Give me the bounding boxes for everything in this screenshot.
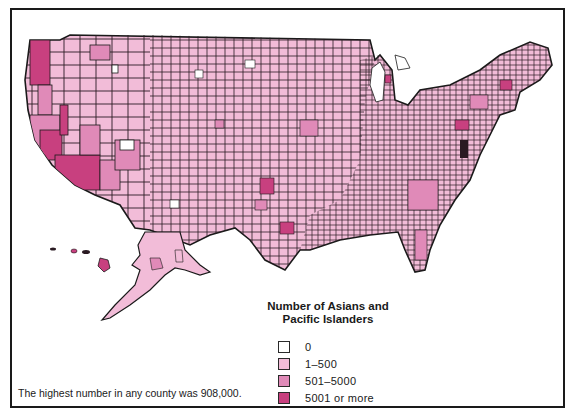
legend-item-501-5000: 501–5000 xyxy=(278,372,408,389)
legend-swatch-icon xyxy=(278,358,290,370)
legend-swatch-icon xyxy=(278,392,290,404)
legend-item-1-500: 1–500 xyxy=(278,355,408,372)
map-legend: Number of Asians and Pacific Islanders 0… xyxy=(258,300,408,406)
alaska xyxy=(102,232,210,320)
hawaii xyxy=(50,248,110,273)
legend-item-5001-plus: 5001 or more xyxy=(278,389,408,406)
footnote: The highest number in any county was 908… xyxy=(18,387,242,399)
legend-item-0: 0 xyxy=(278,338,408,355)
legend-title: Number of Asians and Pacific Islanders xyxy=(258,300,398,326)
contiguous-us xyxy=(20,30,560,280)
legend-swatch-icon xyxy=(278,341,290,353)
legend-swatch-icon xyxy=(278,375,290,387)
